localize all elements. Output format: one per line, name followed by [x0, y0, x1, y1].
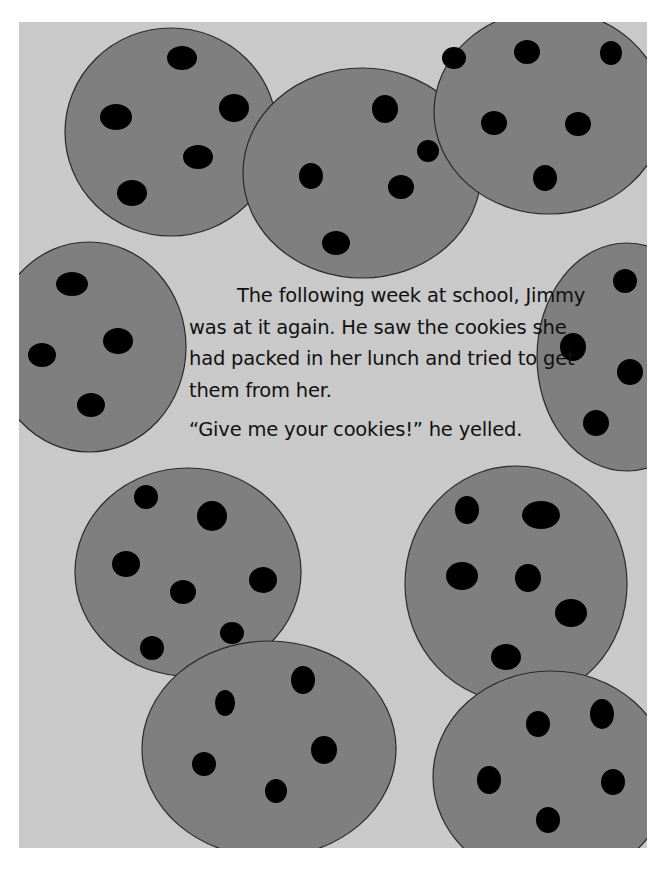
- chocolate-chip: [372, 95, 398, 123]
- chocolate-chip: [514, 40, 540, 64]
- chocolate-chip: [291, 666, 315, 694]
- chocolate-chip: [100, 104, 132, 130]
- chocolate-chip: [134, 485, 158, 509]
- chocolate-chip: [197, 501, 227, 531]
- cookie-bottom-right-top: [405, 466, 627, 702]
- cookie-body: [142, 641, 396, 848]
- chocolate-chip: [555, 599, 587, 627]
- chocolate-chip: [299, 163, 323, 189]
- storybook-page: The following week at school, Jimmy was …: [19, 22, 647, 848]
- chocolate-chip: [77, 393, 105, 417]
- story-quote: “Give me your cookies!” he yelled.: [189, 414, 589, 446]
- chocolate-chip: [600, 41, 622, 65]
- chocolate-chip: [417, 140, 439, 162]
- chocolate-chip: [117, 180, 147, 206]
- chocolate-chip: [183, 145, 213, 169]
- chocolate-chip: [140, 636, 164, 660]
- chocolate-chip: [526, 711, 550, 737]
- chocolate-chip: [220, 622, 244, 644]
- chocolate-chip: [533, 165, 557, 191]
- chocolate-chip: [167, 46, 197, 70]
- chocolate-chip: [265, 779, 287, 803]
- chocolate-chip: [249, 567, 277, 593]
- chocolate-chip: [601, 769, 625, 795]
- cookie-top-left: [65, 28, 277, 236]
- chocolate-chip: [477, 766, 501, 794]
- chocolate-chip: [613, 269, 637, 293]
- chocolate-chip: [617, 359, 643, 385]
- chocolate-chip: [219, 94, 249, 122]
- story-paragraph: The following week at school, Jimmy was …: [189, 280, 589, 406]
- chocolate-chip: [170, 580, 196, 604]
- chocolate-chip: [536, 807, 560, 833]
- chocolate-chip: [522, 501, 560, 529]
- chocolate-chip: [28, 343, 56, 367]
- chocolate-chip: [481, 111, 507, 135]
- cookie-mid-left: [19, 242, 186, 452]
- chocolate-chip: [388, 175, 414, 199]
- chocolate-chip: [103, 328, 133, 354]
- cookie-bottom-middle: [142, 641, 396, 848]
- cookie-bottom-right-bottom: [433, 671, 647, 848]
- chocolate-chip: [322, 231, 350, 255]
- chocolate-chip: [311, 736, 337, 764]
- chocolate-chip: [565, 112, 591, 136]
- chocolate-chip: [491, 644, 521, 670]
- chocolate-chip: [112, 551, 140, 577]
- chocolate-chip: [192, 752, 216, 776]
- chocolate-chip: [215, 690, 235, 716]
- chocolate-chip: [590, 699, 614, 729]
- story-text: The following week at school, Jimmy was …: [189, 280, 589, 446]
- chocolate-chip: [442, 47, 466, 69]
- chocolate-chip: [56, 272, 88, 296]
- chocolate-chip: [515, 564, 541, 592]
- chocolate-chip: [455, 496, 479, 524]
- chocolate-chip: [446, 562, 478, 590]
